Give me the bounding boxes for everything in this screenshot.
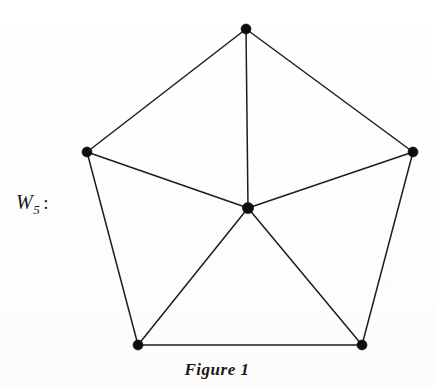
figure-container: W5: Figure 1 — [0, 0, 434, 386]
vertex-v4-rim — [133, 340, 143, 350]
vertex-v1-rim — [241, 24, 251, 34]
edge-rim-v5-v1 — [87, 29, 246, 152]
wheel-graph-w5 — [0, 0, 434, 386]
graph-label-base: W — [16, 191, 33, 213]
edge-spoke-hub-v5 — [87, 152, 248, 208]
vertex-v2-rim — [408, 147, 418, 157]
vertex-v3-rim — [357, 340, 367, 350]
graph-label-colon: : — [43, 192, 49, 213]
edge-spoke-hub-v3 — [248, 208, 362, 345]
vertex-v5-rim — [82, 147, 92, 157]
edge-rim-v1-v2 — [246, 29, 413, 152]
edge-rim-v4-v5 — [87, 152, 138, 345]
edge-spoke-hub-v4 — [138, 208, 248, 345]
graph-edges — [87, 29, 413, 345]
graph-name-label: W5: — [16, 192, 49, 216]
graph-vertices — [82, 24, 418, 350]
figure-caption: Figure 1 — [0, 360, 434, 380]
graph-label-subscript: 5 — [33, 202, 40, 217]
edge-rim-v2-v3 — [362, 152, 413, 345]
vertex-hub-hub — [242, 202, 253, 213]
edge-spoke-hub-v1 — [246, 29, 248, 208]
edge-spoke-hub-v2 — [248, 152, 413, 208]
